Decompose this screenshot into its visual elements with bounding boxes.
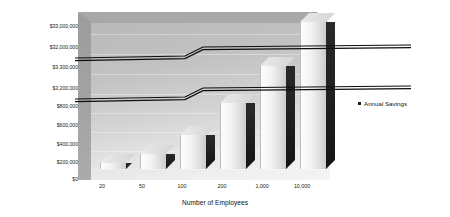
x-tick-label: 50	[127, 183, 157, 189]
bar-side-face	[326, 22, 335, 169]
gridline	[91, 34, 330, 35]
x-tick-label: 1,000	[247, 183, 277, 189]
y-tick-label: $32,000,000	[50, 44, 78, 50]
bar-front-face	[140, 154, 167, 169]
y-tick-label: $3,300,000	[53, 64, 78, 70]
bar-20	[100, 163, 126, 169]
chart-container: $33,000,000 $32,000,000 $3,300,000 $3,20…	[0, 0, 450, 217]
bar-side-face	[286, 66, 295, 169]
bar-front-face	[260, 66, 287, 169]
plot-left-wall	[78, 12, 92, 180]
y-tick-label: $200,000	[57, 159, 78, 165]
plot-area	[78, 12, 330, 180]
legend: Annual Savings	[358, 100, 407, 107]
x-axis-title: Number of Employees	[0, 199, 430, 206]
y-tick-label: $400,000	[57, 141, 78, 147]
gridline	[91, 169, 330, 170]
bar-side-face	[246, 103, 255, 169]
x-tick-label: 100	[167, 183, 197, 189]
y-tick-label: $800,000	[57, 103, 78, 109]
x-tick-label: 200	[207, 183, 237, 189]
bar-front-face	[220, 103, 247, 169]
bar-1000	[260, 66, 286, 169]
gridline	[91, 54, 330, 55]
y-tick-label: $3,200,000	[53, 85, 78, 91]
y-tick-label: $33,000,000	[50, 23, 78, 29]
legend-label: Annual Savings	[364, 100, 407, 107]
y-tick-label: $600,000	[57, 122, 78, 128]
bar-front-face	[100, 163, 127, 169]
bar-front-face	[180, 135, 207, 169]
bar-200	[220, 103, 246, 169]
bar-100	[180, 135, 206, 169]
x-tick-label: 20	[87, 183, 117, 189]
legend-swatch-icon	[358, 102, 361, 105]
x-tick-label: 10,000	[287, 183, 317, 189]
bar-50	[140, 154, 166, 169]
x-axis-labels: 20 50 100 200 1,000 10,000	[0, 183, 450, 193]
bar-front-face	[300, 22, 327, 169]
bar-10000	[300, 22, 326, 169]
